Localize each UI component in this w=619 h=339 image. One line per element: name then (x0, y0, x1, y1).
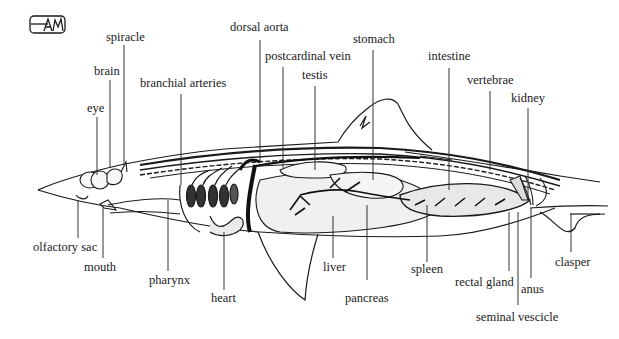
label-pancreas: pancreas (345, 292, 389, 305)
gill-arches (180, 165, 244, 236)
label-kidney: kidney (511, 92, 545, 105)
label-brain: brain (94, 65, 120, 78)
label-seminal-vescicle: seminal vescicle (476, 311, 558, 324)
label-spiracle: spiracle (106, 31, 145, 44)
label-heart: heart (211, 292, 236, 305)
label-dorsal-aorta: dorsal aorta (230, 21, 289, 34)
label-eye: eye (87, 102, 104, 115)
label-testis: testis (302, 69, 328, 82)
shark-anatomy-diagram: spiracle brain eye branchial arteries do… (0, 0, 619, 339)
label-vertebrae: vertebrae (467, 74, 514, 87)
label-stomach: stomach (353, 33, 395, 46)
label-mouth: mouth (84, 261, 116, 274)
label-spleen: spleen (411, 263, 443, 276)
head-organs (76, 162, 180, 214)
label-rectal-gland: rectal gland (455, 276, 514, 289)
label-liver: liver (323, 261, 346, 274)
logo-icon (30, 16, 65, 33)
eye-shape (91, 171, 109, 189)
label-clasper: clasper (555, 256, 590, 269)
label-intestine: intestine (428, 50, 470, 63)
label-postcardinal-vein: postcardinal vein (265, 50, 351, 63)
brain-shape (107, 169, 122, 185)
intestine-shape (400, 184, 530, 217)
label-olfactory-sac: olfactory sac (33, 241, 97, 254)
label-pharynx: pharynx (149, 274, 190, 287)
label-branchial-arteries: branchial arteries (140, 77, 226, 90)
label-anus: anus (521, 283, 544, 296)
